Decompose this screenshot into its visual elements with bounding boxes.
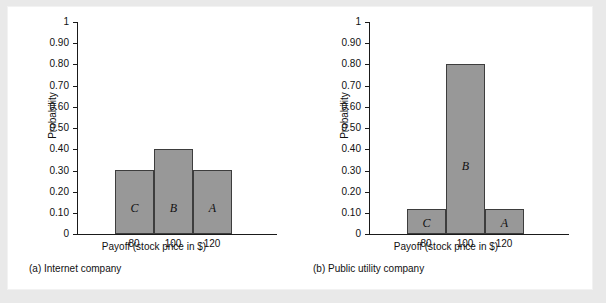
x-axis-line-a bbox=[77, 234, 277, 235]
y-tick-b-10: 0 bbox=[365, 234, 369, 235]
bar-label-a-1: C bbox=[116, 201, 153, 216]
y-tick-label-b-1: 0.90 bbox=[342, 36, 361, 49]
y-tick-label-a-0: 1 bbox=[63, 15, 69, 28]
y-tick-label-a-7: 0.30 bbox=[50, 164, 69, 177]
y-tick-a-1: 0.90 bbox=[73, 43, 77, 44]
y-tick-b-5: 0.50 bbox=[365, 128, 369, 129]
y-tick-label-a-1: 0.90 bbox=[50, 36, 69, 49]
y-tick-label-b-9: 0.10 bbox=[342, 206, 361, 219]
panel-caption-a: (a) Internet company bbox=[29, 263, 121, 274]
bar-b-3[interactable]: A bbox=[485, 209, 524, 234]
chart-panel-a: Probability 1 0.90 0.80 0.70 0.60 0.50 0… bbox=[8, 7, 300, 289]
y-tick-a-0: 1 bbox=[73, 22, 77, 23]
y-tick-b-9: 0.10 bbox=[365, 213, 369, 214]
y-tick-a-10: 0 bbox=[73, 234, 77, 235]
y-tick-label-a-8: 0.20 bbox=[50, 185, 69, 198]
y-tick-label-b-2: 0.80 bbox=[342, 57, 361, 70]
bar-b-2[interactable]: B bbox=[446, 64, 485, 234]
y-tick-a-9: 0.10 bbox=[73, 213, 77, 214]
x-axis-title-b: Payoff (stock price in $) bbox=[300, 241, 592, 252]
bar-a-1[interactable]: C bbox=[115, 170, 154, 234]
y-tick-label-a-10: 0 bbox=[63, 227, 69, 240]
y-tick-a-6: 0.40 bbox=[73, 149, 77, 150]
bar-label-b-2: B bbox=[447, 159, 484, 174]
y-tick-b-0: 1 bbox=[365, 22, 369, 23]
bar-label-a-3: A bbox=[194, 201, 231, 216]
chart-panel-b: Probability 1 0.90 0.80 0.70 0.60 0.50 0… bbox=[300, 7, 592, 289]
y-tick-label-b-8: 0.20 bbox=[342, 185, 361, 198]
bar-a-2[interactable]: B bbox=[154, 149, 193, 234]
x-axis-line-b bbox=[369, 234, 569, 235]
bar-label-b-3: A bbox=[486, 216, 523, 231]
y-tick-b-1: 0.90 bbox=[365, 43, 369, 44]
y-tick-label-a-5: 0.50 bbox=[50, 121, 69, 134]
y-tick-a-3: 0.70 bbox=[73, 86, 77, 87]
y-tick-a-2: 0.80 bbox=[73, 64, 77, 65]
y-tick-label-b-6: 0.40 bbox=[342, 142, 361, 155]
y-tick-label-a-6: 0.40 bbox=[50, 142, 69, 155]
y-tick-label-a-3: 0.70 bbox=[50, 79, 69, 92]
y-tick-label-a-4: 0.60 bbox=[50, 100, 69, 113]
bar-a-3[interactable]: A bbox=[193, 170, 232, 234]
y-tick-b-2: 0.80 bbox=[365, 64, 369, 65]
y-tick-a-8: 0.20 bbox=[73, 192, 77, 193]
plot-area-b: Probability 1 0.90 0.80 0.70 0.60 0.50 0… bbox=[369, 22, 569, 235]
y-tick-label-a-2: 0.80 bbox=[50, 57, 69, 70]
y-tick-label-a-9: 0.10 bbox=[50, 206, 69, 219]
x-axis-title-a: Payoff (stock price in $) bbox=[8, 241, 300, 252]
y-tick-label-b-3: 0.70 bbox=[342, 79, 361, 92]
y-tick-b-6: 0.40 bbox=[365, 149, 369, 150]
y-tick-b-8: 0.20 bbox=[365, 192, 369, 193]
y-tick-a-7: 0.30 bbox=[73, 171, 77, 172]
bars-b: C B A bbox=[370, 22, 569, 234]
bar-label-a-2: B bbox=[155, 201, 192, 216]
y-tick-label-b-10: 0 bbox=[355, 227, 361, 240]
y-tick-b-4: 0.60 bbox=[365, 107, 369, 108]
y-tick-b-3: 0.70 bbox=[365, 86, 369, 87]
bars-a: C B A bbox=[78, 22, 277, 234]
y-tick-label-b-7: 0.30 bbox=[342, 164, 361, 177]
bar-b-1[interactable]: C bbox=[407, 209, 446, 234]
y-tick-label-b-5: 0.50 bbox=[342, 121, 361, 134]
figure-frame: Probability 1 0.90 0.80 0.70 0.60 0.50 0… bbox=[8, 7, 592, 289]
panel-caption-b: (b) Public utility company bbox=[313, 263, 424, 274]
y-tick-label-b-4: 0.60 bbox=[342, 100, 361, 113]
plot-area-a: Probability 1 0.90 0.80 0.70 0.60 0.50 0… bbox=[77, 22, 277, 235]
y-tick-a-4: 0.60 bbox=[73, 107, 77, 108]
y-tick-a-5: 0.50 bbox=[73, 128, 77, 129]
bar-label-b-1: C bbox=[408, 216, 445, 231]
y-tick-b-7: 0.30 bbox=[365, 171, 369, 172]
y-tick-label-b-0: 1 bbox=[355, 15, 361, 28]
